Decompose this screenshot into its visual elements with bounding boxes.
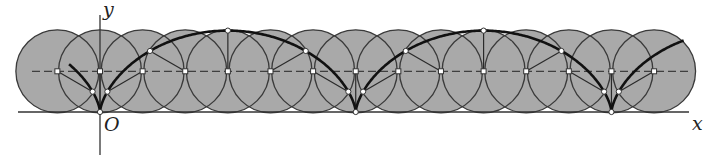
cycloid-point — [616, 89, 621, 94]
y-axis-label: y — [102, 0, 114, 20]
center-point — [524, 69, 529, 74]
cycloid-point — [481, 28, 486, 33]
cycloid-point — [90, 89, 95, 94]
cycloid-point — [303, 48, 308, 53]
center-point — [652, 69, 657, 74]
cycloid-point — [353, 109, 358, 114]
center-point — [438, 69, 443, 74]
cycloid-point — [403, 48, 408, 53]
center-point — [268, 69, 273, 74]
center-point — [140, 69, 145, 74]
center-point — [566, 69, 571, 74]
cycloid-point — [346, 89, 351, 94]
cycloid-point — [609, 109, 614, 114]
center-point — [225, 69, 230, 74]
center-point — [481, 69, 486, 74]
cycloid-point — [559, 48, 564, 53]
center-point — [353, 69, 358, 74]
center-point — [55, 69, 60, 74]
center-point — [183, 69, 188, 74]
cycloid-point — [105, 89, 110, 94]
cycloid-point — [97, 109, 102, 114]
cycloid-point — [360, 89, 365, 94]
center-point — [311, 69, 316, 74]
x-axis-label: x — [692, 112, 703, 134]
cycloid-point — [147, 48, 152, 53]
cycloid-point — [225, 28, 230, 33]
center-point — [396, 69, 401, 74]
center-point — [609, 69, 614, 74]
center-point — [98, 69, 103, 74]
cycloid-diagram: y O x — [0, 0, 709, 161]
origin-label: O — [104, 113, 120, 135]
cycloid-point — [601, 89, 606, 94]
cycloid-figure: y O x — [0, 0, 709, 161]
